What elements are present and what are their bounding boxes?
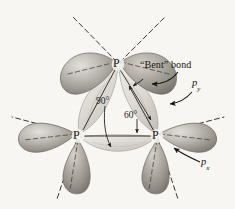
- angle-90-label: 90°: [96, 97, 109, 107]
- atom-label-p-left: P: [73, 129, 80, 141]
- orbital-label-py-sub: y: [197, 85, 200, 93]
- orbital-diagram-figure: P P P “Bent” bond 90° 60° py px: [0, 0, 235, 209]
- orbital-label-py: py: [192, 78, 200, 89]
- diagram-canvas: [0, 0, 235, 209]
- orbital-label-px-sub: x: [206, 164, 209, 172]
- atom-label-p-right: P: [152, 129, 159, 141]
- bent-bond-label: “Bent” bond: [140, 60, 191, 70]
- angle-60-label: 60°: [124, 111, 137, 121]
- orbital-axis-group: [12, 16, 224, 199]
- bent-bond-left-right: [80, 135, 156, 152]
- orbital-lobe-right-east: [159, 123, 217, 152]
- atom-label-p-top: P: [113, 57, 120, 69]
- orbital-lobe-left-west: [18, 123, 76, 152]
- orbital-label-px: px: [201, 157, 209, 168]
- leader-py: [170, 92, 192, 104]
